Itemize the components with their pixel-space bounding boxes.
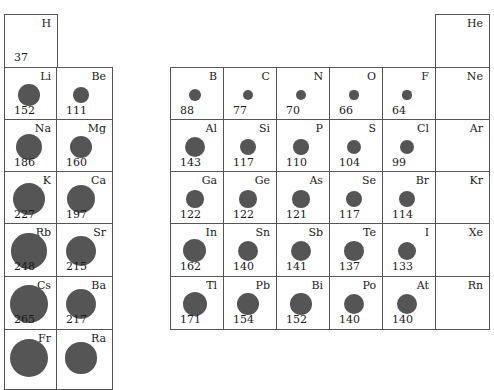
atom-size-circle (70, 136, 93, 159)
element-symbol: H (41, 18, 51, 30)
element-symbol: Si (259, 123, 270, 135)
atomic-radius-value: 140 (339, 314, 360, 326)
element-cell-xe: Xe (435, 223, 490, 277)
atom-size-circle (293, 139, 309, 155)
element-symbol: Cl (417, 123, 429, 135)
atom-size-circle (10, 339, 48, 377)
element-cell-te: Te137 (329, 223, 383, 277)
element-cell-sn: Sn140 (223, 223, 277, 277)
element-symbol: I (425, 227, 429, 239)
atomic-radius-value: 111 (66, 105, 87, 117)
element-symbol: As (309, 175, 323, 187)
element-symbol: Bi (311, 280, 323, 292)
element-cell-cl: Cl99 (382, 119, 436, 173)
atomic-radius-value: 162 (180, 261, 201, 273)
element-cell-f: F64 (382, 67, 436, 121)
element-cell-cs: Cs265 (4, 276, 58, 330)
element-cell-c: C77 (223, 67, 277, 121)
element-symbol: C (262, 71, 270, 83)
atomic-radius-value: 186 (14, 157, 35, 169)
element-symbol: Be (91, 71, 106, 83)
atom-size-circle (344, 241, 363, 260)
element-symbol: Po (362, 280, 376, 292)
atom-size-circle (290, 293, 312, 315)
element-cell-ge: Ge122 (223, 171, 277, 225)
atom-size-circle (65, 342, 96, 373)
element-cell-he: He (435, 14, 490, 68)
atom-size-circle (18, 84, 40, 106)
atomic-radius-value: 114 (392, 209, 413, 221)
element-symbol: Pb (256, 280, 270, 292)
atom-size-circle (346, 191, 363, 208)
atom-size-circle (240, 139, 257, 156)
atomic-radius-value: 141 (286, 261, 307, 273)
atom-size-circle (237, 293, 259, 315)
element-cell-k: K227 (4, 171, 58, 225)
element-symbol: B (209, 71, 217, 83)
atomic-radius-value: 121 (286, 209, 307, 221)
element-symbol: Sr (93, 227, 106, 239)
atomic-radius-value: 217 (66, 314, 87, 326)
atomic-radius-value: 104 (339, 157, 360, 169)
element-symbol: In (206, 227, 217, 239)
element-symbol: Al (206, 123, 217, 135)
atomic-radius-value: 265 (14, 314, 35, 326)
element-cell-i: I133 (382, 223, 436, 277)
atomic-radius-value: 110 (286, 157, 307, 169)
element-cell-si: Si117 (223, 119, 277, 173)
element-symbol: Mg (88, 123, 106, 135)
atom-size-circle (296, 90, 306, 100)
element-cell-bi: Bi152 (276, 276, 330, 330)
element-cell-al: Al143 (170, 119, 224, 173)
element-cell-ca: Ca197 (56, 171, 113, 225)
atomic-radius-value: 77 (233, 105, 247, 117)
atomic-radius-value: 122 (233, 209, 254, 221)
element-cell-as: As121 (276, 171, 330, 225)
atom-size-circle (400, 140, 414, 154)
atom-size-circle (349, 90, 358, 99)
element-symbol: P (316, 123, 323, 135)
element-symbol: Sn (255, 227, 270, 239)
element-cell-s: S104 (329, 119, 383, 173)
atomic-radius-value: 152 (286, 314, 307, 326)
element-cell-ba: Ba217 (56, 276, 113, 330)
element-cell-li: Li152 (4, 67, 58, 121)
atomic-radius-value: 117 (339, 209, 360, 221)
atomic-radius-value: 215 (66, 261, 87, 273)
element-symbol: O (367, 71, 376, 83)
element-cell-tl: Tl171 (170, 276, 224, 330)
element-symbol: N (313, 71, 323, 83)
atomic-radius-value: 227 (14, 209, 35, 221)
atomic-radius-value: 171 (180, 314, 201, 326)
element-symbol: Te (363, 227, 376, 239)
atom-size-circle (186, 190, 203, 207)
element-cell-ar: Ar (435, 119, 490, 173)
element-symbol: Na (35, 123, 51, 135)
element-symbol: Ar (470, 123, 483, 135)
element-cell-be: Be111 (56, 67, 113, 121)
element-cell-kr: Kr (435, 171, 490, 225)
element-symbol: Rn (468, 280, 483, 292)
atomic-radius-value: 99 (392, 157, 406, 169)
element-symbol: He (467, 18, 483, 30)
element-cell-b: B88 (170, 67, 224, 121)
atomic-radius-value: 70 (286, 105, 300, 117)
atom-size-circle (399, 191, 415, 207)
atomic-radius-value: 248 (14, 261, 35, 273)
atomic-radius-value: 122 (180, 209, 201, 221)
atomic-radius-value: 64 (392, 105, 406, 117)
atomic-radius-value: 133 (392, 261, 413, 273)
atom-size-circle (292, 190, 309, 207)
atomic-radius-value: 143 (180, 157, 201, 169)
element-symbol: Ge (255, 175, 270, 187)
atomic-radius-value: 160 (66, 157, 87, 169)
element-cell-na: Na186 (4, 119, 58, 173)
atomic-radius-value: 197 (66, 209, 87, 221)
atomic-radius-value: 140 (392, 314, 413, 326)
element-symbol: Br (416, 175, 429, 187)
atom-size-circle (291, 241, 311, 261)
element-symbol: Xe (469, 227, 483, 239)
atomic-radius-value: 117 (233, 157, 254, 169)
element-symbol: K (43, 175, 51, 187)
element-cell-sb: Sb141 (276, 223, 330, 277)
